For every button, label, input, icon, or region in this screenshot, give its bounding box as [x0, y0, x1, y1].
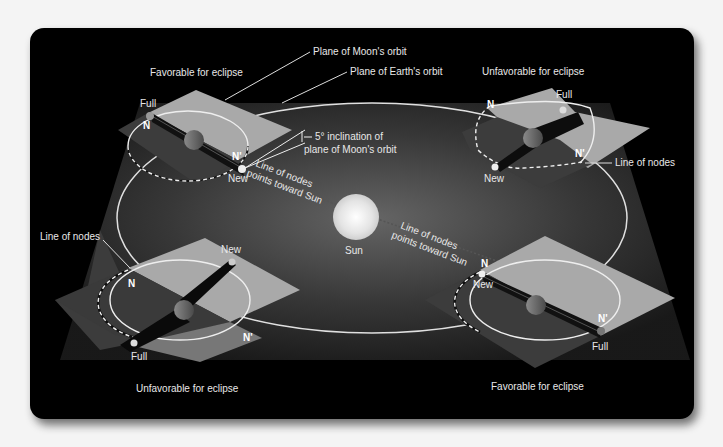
- node-n-prime: N': [243, 332, 253, 343]
- label-new: New: [228, 173, 249, 184]
- label-full: Full: [131, 351, 147, 362]
- node-n-prime: N': [598, 313, 608, 324]
- label-new: New: [473, 279, 494, 290]
- earth-icon: [523, 128, 543, 148]
- callout-inclination-1: 5° inclination of: [315, 131, 383, 142]
- caption: Favorable for eclipse: [491, 381, 584, 392]
- sun-icon: [333, 194, 379, 240]
- caption: Favorable for eclipse: [150, 67, 243, 78]
- callout-earth-plane: Plane of Earth's orbit: [350, 66, 443, 77]
- label-line-of-nodes: Line of nodes: [615, 157, 675, 168]
- label-new: New: [221, 244, 242, 255]
- eclipse-diagram: Sun Line of nodes points toward Sun Line…: [0, 0, 723, 447]
- label-full: Full: [556, 89, 572, 100]
- moon-full: [597, 327, 605, 335]
- node-n: N: [487, 99, 494, 110]
- caption: Unfavorable for eclipse: [136, 383, 239, 394]
- node-n: N: [481, 258, 488, 269]
- callout-moon-plane: Plane of Moon's orbit: [313, 46, 407, 57]
- label-line-of-nodes: Line of nodes: [40, 231, 100, 242]
- label-full: Full: [592, 341, 608, 352]
- sun-label: Sun: [345, 245, 363, 256]
- label-new: New: [484, 173, 505, 184]
- node-n: N: [143, 120, 150, 131]
- moon-new: [238, 165, 246, 173]
- earth-icon: [174, 300, 194, 320]
- earth-icon: [526, 295, 546, 315]
- moon-new: [492, 164, 499, 171]
- caption: Unfavorable for eclipse: [482, 66, 585, 77]
- callout-inclination-2: plane of Moon's orbit: [304, 144, 397, 155]
- moon-full: [146, 112, 154, 120]
- node-n-prime: N': [232, 151, 242, 162]
- moon-new: [479, 271, 486, 278]
- moon-full: [131, 340, 138, 347]
- node-n-prime: N': [575, 148, 585, 159]
- moon-new: [229, 259, 236, 266]
- label-full: Full: [140, 98, 156, 109]
- moon-full: [560, 107, 567, 114]
- earth-icon: [184, 130, 204, 150]
- node-n: N: [128, 278, 135, 289]
